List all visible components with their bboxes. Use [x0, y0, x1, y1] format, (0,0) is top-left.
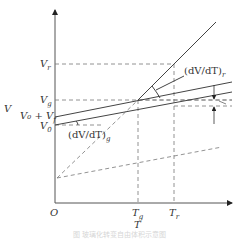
figure-caption: 图 玻璃化转变自由体积示意图: [0, 229, 239, 239]
slope-label-g: (dV/dT)g: [68, 130, 110, 143]
v0vf-sub: f: [53, 116, 56, 124]
slope-r-main: (dV/dT): [184, 65, 222, 76]
tick-label-v0: V0: [40, 121, 52, 134]
slope-g-main: (dV/dT): [68, 129, 106, 140]
tr-main: T: [169, 207, 176, 218]
origin-label: O: [50, 208, 58, 218]
tg-main: T: [132, 207, 139, 218]
vf-pointer: [219, 101, 226, 104]
axes: [55, 10, 232, 203]
y-axis-label-text: V: [4, 103, 11, 114]
free-volume-arrows: [214, 85, 226, 124]
slope-g-sub: g: [106, 135, 110, 143]
angle-arc-r: [152, 86, 160, 98]
occupied-volume-line: [57, 147, 222, 178]
origin-label-text: O: [50, 207, 58, 218]
vg-sub: g: [47, 100, 51, 108]
vr-sub: r: [47, 64, 50, 72]
tick-label-vr: Vr: [40, 59, 51, 72]
v0vf-main: V₀ + V: [20, 110, 53, 121]
tick-label-vg: Vg: [40, 95, 52, 108]
rubbery-state-line: [138, 22, 216, 100]
angle-arc-g: [76, 121, 78, 125]
tick-label-tg: Tg: [132, 208, 143, 221]
slope-r-sub: r: [222, 71, 225, 79]
tr-sub: r: [176, 213, 179, 221]
y-axis-label: V: [4, 104, 11, 114]
glassy-state-line: [55, 82, 232, 117]
tick-label-tr: Tr: [169, 208, 179, 221]
glassy-occupied-line: [55, 92, 232, 125]
tg-sub: g: [139, 213, 143, 221]
v0-sub: 0: [47, 126, 51, 134]
slope-label-r: (dV/dT)r: [184, 66, 225, 79]
